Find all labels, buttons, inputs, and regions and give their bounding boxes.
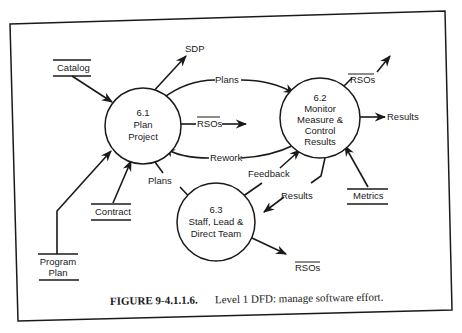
svg-text:RSOs: RSOs xyxy=(197,118,223,129)
flow-rsos-6-3 xyxy=(252,238,286,254)
flow-plans-6-1-to-6-3 xyxy=(155,162,163,173)
store-metrics-label: Metrics xyxy=(353,190,384,201)
process-6-2-line-4: Control xyxy=(305,125,336,136)
process-6-1: 6.1 Plan Project xyxy=(105,88,181,164)
flow-label-sdp: SDP xyxy=(185,43,205,54)
caption-number: FIGURE 9-4.1.1.6. xyxy=(110,294,198,307)
dfd-figure: 6.1 Plan Project 6.2 Monitor Measure & C… xyxy=(0,0,462,333)
process-6-3: 6.3 Staff, Lead & Direct Team xyxy=(177,183,255,261)
flow-rework xyxy=(241,145,294,158)
flow-plans-6-1-to-6-2 xyxy=(162,80,215,99)
flow-catalog-to-6-1 xyxy=(72,76,112,102)
flow-program-plan-to-6-1 xyxy=(57,151,111,254)
caption-text: Level 1 DFD: manage software effort. xyxy=(215,291,384,306)
process-6-2-line-5: Results xyxy=(304,136,336,147)
figure-frame xyxy=(10,11,452,321)
store-program-plan-line-1: Program xyxy=(40,256,77,267)
process-6-2: 6.2 Monitor Measure & Control Results xyxy=(280,78,360,158)
store-program-plan-line-2: Plan xyxy=(48,267,67,278)
process-6-3-line-2: Staff, Lead & xyxy=(189,216,244,227)
flow-results-6-2-to-6-3 xyxy=(311,158,325,183)
flow-label-plans-6-3: Plans xyxy=(148,175,172,186)
process-6-3-number: 6.3 xyxy=(209,204,222,215)
store-metrics: Metrics xyxy=(347,189,388,204)
flow-contract-to-6-1 xyxy=(113,161,131,203)
process-6-3-line-3: Direct Team xyxy=(191,228,242,239)
process-6-1-line-2: Plan xyxy=(133,119,152,130)
store-catalog: Catalog xyxy=(53,60,91,76)
store-catalog-label: Catalog xyxy=(57,62,90,73)
svg-text:RSOs: RSOs xyxy=(295,262,321,273)
flow-label-rework: Rework xyxy=(210,152,242,163)
flow-label-plans-top: Plans xyxy=(215,74,239,85)
flow-metrics-to-6-2 xyxy=(345,146,368,187)
flow-label-feedback: Feedback xyxy=(248,168,290,179)
store-contract: Contract xyxy=(91,204,131,220)
flow-label-results-6-3: Results xyxy=(281,190,313,201)
flow-label-rsos-6-1: RSOs xyxy=(197,117,223,129)
process-6-2-line-2: Monitor xyxy=(304,103,336,114)
process-6-1-line-3: Project xyxy=(128,131,158,142)
svg-text:RSOs: RSOs xyxy=(350,74,376,85)
process-6-2-number: 6.2 xyxy=(313,92,326,103)
flow-label-rsos-6-3: RSOs xyxy=(295,262,321,273)
store-contract-label: Contract xyxy=(95,206,131,217)
flow-label-results-out: Results xyxy=(387,111,419,122)
process-6-2-line-3: Measure & xyxy=(297,114,344,125)
flow-label-rsos-6-2: RSOs xyxy=(348,74,376,85)
process-6-1-number: 6.1 xyxy=(136,107,149,118)
store-program-plan: Program Plan xyxy=(38,254,79,280)
figure-caption: FIGURE 9-4.1.1.6. Level 1 DFD: manage so… xyxy=(110,291,384,307)
